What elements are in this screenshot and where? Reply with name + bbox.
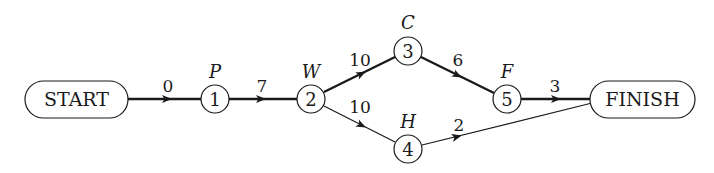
node-1: 1 P <box>201 61 229 113</box>
edge-start-1 <box>128 95 201 103</box>
node-number: 2 <box>305 89 316 110</box>
node-4: 4 H <box>394 111 422 163</box>
activity-label: P <box>208 61 222 82</box>
activity-label: H <box>399 111 416 132</box>
duration-2-4: 10 <box>349 97 371 117</box>
activity-label: C <box>401 12 415 33</box>
node-number: 3 <box>402 41 413 62</box>
finish-terminal: FINISH <box>590 81 695 118</box>
node-2: 2 W <box>297 61 325 113</box>
activity-label: F <box>500 61 515 82</box>
duration-5-finish: 3 <box>550 76 561 96</box>
duration-1-2: 7 <box>257 76 268 96</box>
duration-4-finish: 2 <box>454 115 465 135</box>
edge-5-finish <box>521 95 590 103</box>
edge-1-2 <box>229 95 297 103</box>
node-number: 4 <box>402 139 413 160</box>
start-terminal: START <box>25 81 128 118</box>
arrow-icon <box>451 69 464 81</box>
node-number: 5 <box>501 89 512 110</box>
node-number: 1 <box>209 89 220 110</box>
duration-3-5: 6 <box>453 50 464 70</box>
duration-2-3: 10 <box>349 50 371 70</box>
node-5: 5 F <box>493 61 521 113</box>
arrow-icon <box>355 119 368 131</box>
duration-start-1: 0 <box>163 76 174 96</box>
start-label: START <box>44 88 109 110</box>
pert-diagram: START FINISH 1 P 2 W 3 C 4 H 5 F 0 7 10 … <box>0 0 714 173</box>
finish-label: FINISH <box>605 88 679 110</box>
node-3: 3 C <box>394 12 422 65</box>
activity-label: W <box>302 61 322 82</box>
